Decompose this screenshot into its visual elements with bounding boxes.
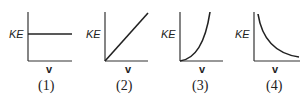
y-axis-label: KE [161, 28, 176, 40]
y-axis-label: KE [9, 28, 24, 40]
y-axis-label: KE [235, 28, 250, 40]
y-axis-label: KE [86, 28, 101, 40]
panel-caption: (4) [266, 78, 283, 94]
graph-panel-3: KE v (3) [161, 12, 223, 94]
graph-panel-2: KE v (2) [86, 12, 148, 94]
x-axis-label: v [125, 63, 132, 75]
panel-caption: (2) [116, 78, 133, 94]
x-axis-label: v [272, 63, 279, 75]
graph-panel-1: KE v (1) [9, 12, 72, 94]
graph-panel-4: KE v (4) [235, 12, 300, 94]
panel-caption: (3) [192, 78, 209, 94]
kinetic-energy-vs-velocity-graphs: KE v (1) KE v (2) KE v (3) KE v (4) [0, 0, 306, 97]
linear-line [105, 13, 148, 61]
x-axis-label: v [46, 63, 53, 75]
x-axis-label: v [199, 63, 206, 75]
quadratic-curve [180, 12, 210, 61]
panel-caption: (1) [38, 78, 55, 94]
inverse-curve [258, 14, 299, 57]
